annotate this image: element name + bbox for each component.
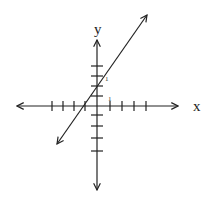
y-tick-label-1: 1 bbox=[105, 75, 109, 83]
y-axis-label: y bbox=[94, 21, 102, 37]
x-axis-label: x bbox=[193, 98, 201, 114]
coordinate-graph: 1 1 y x bbox=[0, 0, 214, 201]
x-tick-label-1: 1 bbox=[108, 95, 112, 103]
plotted-line bbox=[57, 15, 147, 144]
